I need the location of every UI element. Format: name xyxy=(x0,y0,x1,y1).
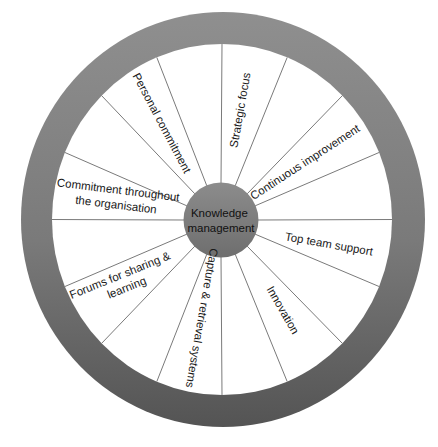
hub-label-line-1: Knowledge xyxy=(191,207,248,219)
wheel-spoke xyxy=(258,220,393,221)
hub-label-line-2: management xyxy=(187,222,255,234)
wheel-spoke xyxy=(52,220,185,221)
wheel-hub xyxy=(184,183,259,258)
knowledge-management-wheel: Knowledge management Strategic focus Con… xyxy=(0,0,438,447)
wheel-diagram: Knowledge management Strategic focus Con… xyxy=(0,0,438,447)
